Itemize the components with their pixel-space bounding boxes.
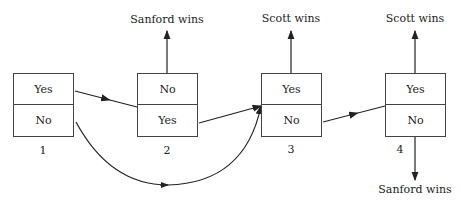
outcome-sanford-wins-top: Sanford wins <box>117 13 217 26</box>
outcome-scott-wins-4: Scott wins <box>365 12 461 25</box>
box-3-top: Yes <box>262 74 321 105</box>
box-2-top: No <box>138 74 197 105</box>
outcome-scott-wins-3: Scott wins <box>241 12 341 25</box>
box-4-bottom: No <box>386 105 445 136</box>
box-4-top: Yes <box>386 74 445 105</box>
box-4-number: 4 <box>390 143 410 156</box>
box-1-top: Yes <box>14 74 73 105</box>
decision-box-1: Yes No <box>13 73 74 137</box>
outcome-sanford-wins-bottom: Sanford wins <box>365 183 461 196</box>
box-1-number: 1 <box>33 144 53 157</box>
arrow-1yes-to-2 <box>75 91 137 107</box>
decision-box-2: No Yes <box>137 73 198 137</box>
box-3-number: 3 <box>281 143 301 156</box>
decision-box-3: Yes No <box>261 73 322 137</box>
arrow-2yes-to-3 <box>199 106 261 123</box>
box-2-bottom: Yes <box>138 105 197 136</box>
box-1-bottom: No <box>14 105 73 136</box>
box-3-bottom: No <box>262 105 321 136</box>
decision-box-4: Yes No <box>385 73 446 137</box>
arrow-3no-to-4 <box>323 106 385 122</box>
box-2-number: 2 <box>157 144 177 157</box>
